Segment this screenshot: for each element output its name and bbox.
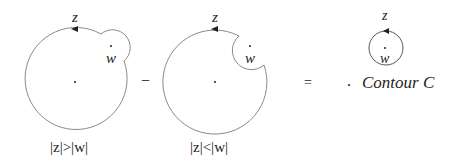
w-label: w: [245, 50, 255, 66]
z-label: z: [211, 9, 218, 25]
origin-dot: [74, 81, 76, 83]
caption-outer: |z|>|w|: [50, 139, 88, 155]
w-label: w: [380, 51, 390, 66]
w-label: w: [106, 50, 116, 66]
origin-dot: [214, 81, 216, 83]
result-dot: .: [347, 72, 351, 89]
arrow-icon: [71, 26, 78, 32]
result-label: Contour C: [362, 73, 435, 92]
equals-operator: =: [304, 75, 312, 90]
arrow-icon: [383, 28, 389, 34]
caption-inner: |z|<|w|: [190, 139, 228, 155]
z-label: z: [381, 8, 388, 23]
w-point-dot: [384, 47, 386, 49]
z-label: z: [71, 9, 78, 25]
panel-outer-contour: z w |z|>|w|: [25, 9, 130, 155]
w-point-dot: [110, 45, 112, 47]
contour-diagram: z w |z|>|w| − z w |z|<|w| = z w . Contou…: [0, 0, 467, 166]
panel-inner-contour: z w |z|<|w|: [163, 9, 267, 155]
minus-operator: −: [141, 72, 150, 89]
outer-contour-path: [25, 28, 130, 130]
w-point-dot: [249, 45, 251, 47]
arrow-icon: [211, 26, 218, 32]
panel-small-contour: z w: [369, 8, 403, 66]
